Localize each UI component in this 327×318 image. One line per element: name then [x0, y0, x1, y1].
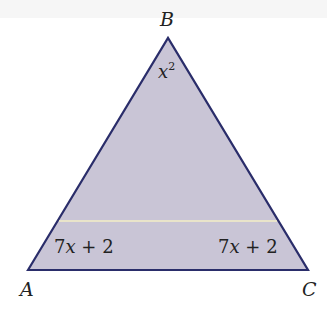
- vertex-label-a: A: [18, 278, 34, 300]
- triangle-diagram: B A C x2 7x + 2 7x + 2: [0, 0, 327, 318]
- angle-c-label: 7x + 2: [218, 236, 278, 257]
- angle-a-label: 7x + 2: [54, 236, 114, 257]
- vertex-label-c: C: [302, 278, 317, 300]
- vertex-label-b: B: [159, 8, 174, 30]
